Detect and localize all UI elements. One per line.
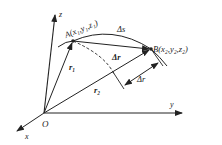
dashed-arc — [73, 41, 114, 74]
delta-r-vector-label: Δr — [111, 52, 121, 62]
point-b-label: B(x₂,y₂,z₂) — [153, 44, 188, 54]
point-a-label: A(x₁,y₁,z₁) — [62, 17, 99, 40]
r1-label: r₁ — [69, 62, 75, 72]
delta-r-magnitude-label: Δr — [136, 74, 146, 84]
x-axis — [17, 113, 44, 131]
r2-label: r₂ — [94, 85, 100, 95]
point-a — [71, 39, 75, 43]
displacement-diagram: z y x O A(x₁,y₁,z₁) B(x₂,y₂,z₂) Δs Δr Δr… — [0, 0, 222, 145]
z-label: z — [58, 10, 63, 19]
delta-s-label: Δs — [116, 24, 126, 34]
y-label: y — [169, 100, 174, 109]
x-label: x — [24, 132, 29, 141]
origin-label: O — [42, 119, 49, 129]
r2-vector — [44, 50, 149, 113]
extension-line-1 — [113, 72, 124, 89]
